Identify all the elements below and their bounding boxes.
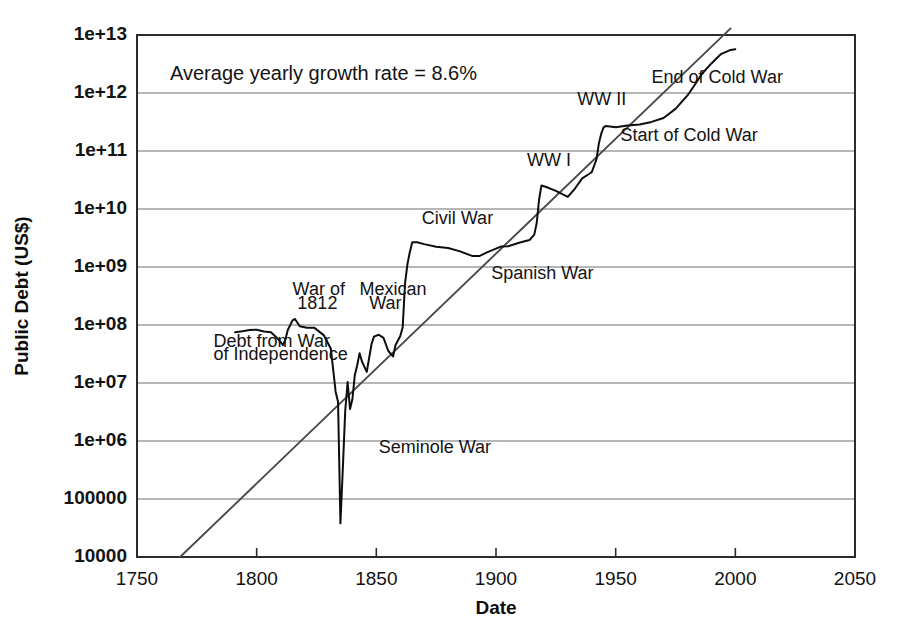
x-tick-labels-group: 1750180018501900195020002050 xyxy=(116,568,876,589)
event-annotation-label: Civil War xyxy=(422,208,493,228)
x-tick-label: 1900 xyxy=(475,568,517,589)
x-tick-label: 1750 xyxy=(116,568,158,589)
x-axis-title: Date xyxy=(475,597,516,618)
y-tick-label: 1e+06 xyxy=(74,429,127,450)
x-tick-label: 1850 xyxy=(355,568,397,589)
x-tick-label: 2000 xyxy=(714,568,756,589)
y-axis-title: Public Debt (US$) xyxy=(11,216,32,375)
y-tick-label: 1e+12 xyxy=(74,81,127,102)
y-tick-label: 1e+13 xyxy=(74,23,127,44)
event-annotation-label: Start of Cold War xyxy=(620,125,757,145)
event-annotations-group: Debt from Warof IndependenceWar of1812Me… xyxy=(214,67,783,457)
event-annotation-label: WW II xyxy=(577,89,626,109)
plot-frame xyxy=(137,35,855,557)
event-annotation-label: 1812 xyxy=(297,293,337,313)
chart-container: 100001000001e+061e+071e+081e+091e+101e+1… xyxy=(0,0,915,642)
y-tick-label: 1e+10 xyxy=(74,197,127,218)
event-annotation-label: WW I xyxy=(527,150,571,170)
y-tick-label: 1e+08 xyxy=(74,313,127,334)
x-tick-marks-group xyxy=(257,548,736,557)
public-debt-chart: 100001000001e+061e+071e+081e+091e+101e+1… xyxy=(0,0,915,642)
gridlines-group xyxy=(137,93,855,499)
x-tick-label: 1800 xyxy=(236,568,278,589)
event-annotation-label: of Independence xyxy=(214,344,348,364)
y-tick-label: 1e+07 xyxy=(74,371,127,392)
y-tick-label: 1e+11 xyxy=(75,139,128,160)
growth-rate-annotation: Average yearly growth rate = 8.6% xyxy=(170,62,477,84)
event-annotation-label: War xyxy=(369,293,401,313)
x-tick-label: 2050 xyxy=(834,568,876,589)
x-tick-label: 1950 xyxy=(595,568,637,589)
y-tick-label: 100000 xyxy=(64,487,127,508)
y-tick-labels-group: 100001000001e+061e+071e+081e+091e+101e+1… xyxy=(64,23,128,566)
event-annotation-label: Spanish War xyxy=(491,263,593,283)
exponential-trend-line xyxy=(180,28,730,557)
event-annotation-label: End of Cold War xyxy=(652,67,783,87)
event-annotation-label: Seminole War xyxy=(379,437,491,457)
y-tick-label: 1e+09 xyxy=(74,255,127,276)
y-tick-label: 10000 xyxy=(74,545,127,566)
